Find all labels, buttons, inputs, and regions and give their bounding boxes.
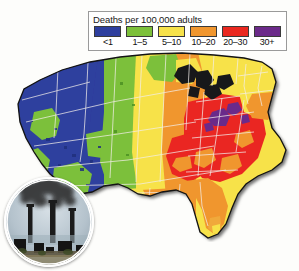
smokestacks-photo (4, 177, 94, 267)
legend-swatch-30plus (254, 26, 281, 37)
legend-title: Deaths per 100,000 adults (93, 14, 282, 25)
legend-swatch-10-20 (190, 26, 217, 37)
legend-swatch-5-10 (158, 26, 185, 37)
legend-item-lt1: <1 (93, 26, 123, 48)
legend-item-5-10: 5–10 (157, 26, 187, 48)
legend-label-10-20: 10–20 (191, 37, 215, 48)
legend-label-20-30: 20–30 (223, 37, 247, 48)
legend-item-30plus: 30+ (252, 26, 282, 48)
legend-label-5-10: 5–10 (162, 37, 181, 48)
legend-label-lt1: <1 (103, 37, 113, 48)
legend-item-10-20: 10–20 (188, 26, 218, 48)
figure-root: Deaths per 100,000 adults <1 1–5 5–10 10… (0, 0, 299, 271)
legend-label-1-5: 1–5 (133, 37, 147, 48)
legend-item-1-5: 1–5 (125, 26, 155, 48)
legend-swatch-1-5 (126, 26, 153, 37)
legend-item-20-30: 20–30 (220, 26, 250, 48)
legend-swatch-lt1 (94, 26, 121, 37)
legend-scale: <1 1–5 5–10 10–20 20–30 30+ (93, 26, 282, 48)
legend-swatch-20-30 (222, 26, 249, 37)
map-legend: Deaths per 100,000 adults <1 1–5 5–10 10… (88, 11, 287, 51)
smokestacks-photo-svg (6, 179, 92, 265)
legend-label-30plus: 30+ (260, 37, 275, 48)
